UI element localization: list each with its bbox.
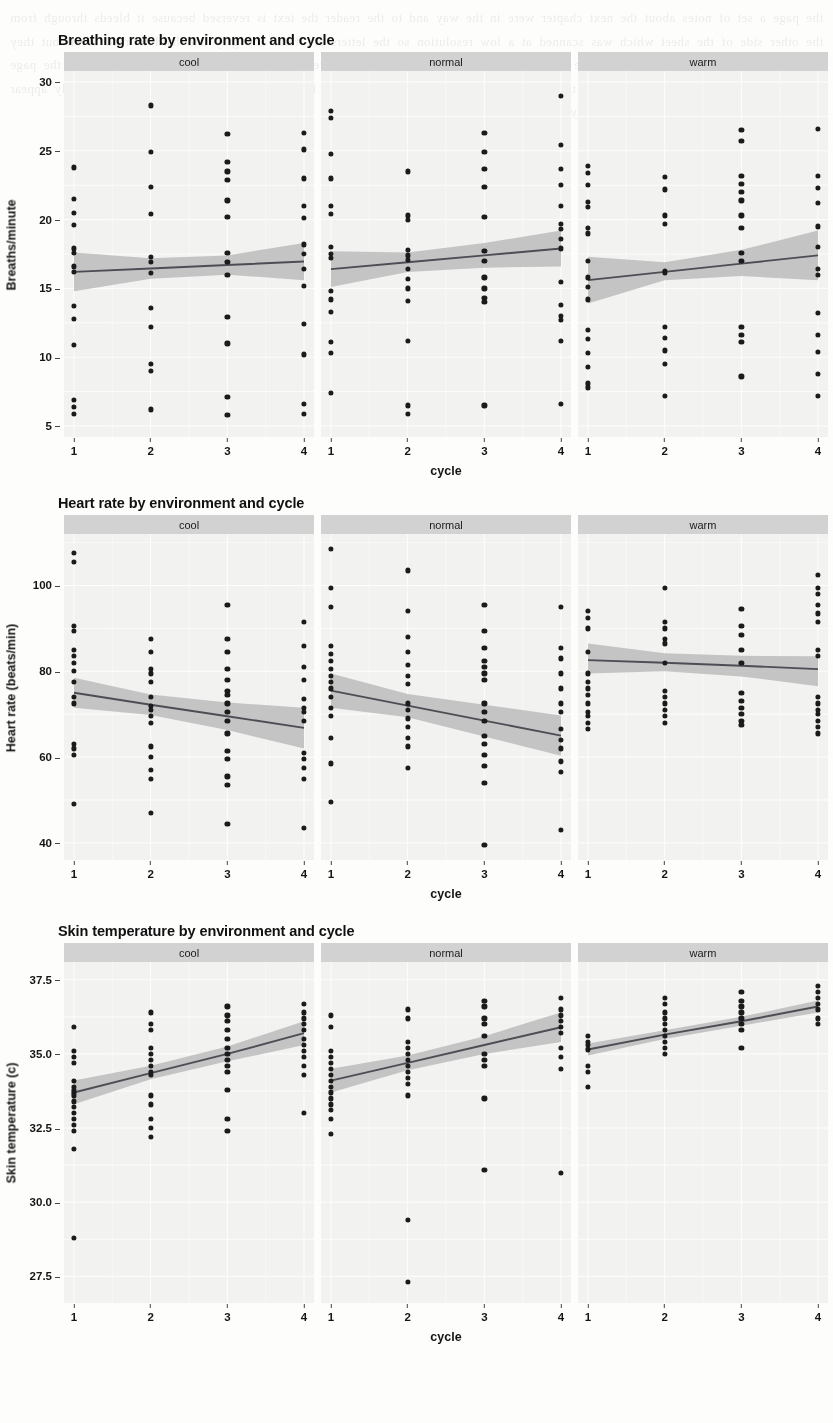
x-axis-tick: 2 [661,1304,667,1323]
facet-strip-label: warm [578,52,828,71]
x-tick-group: 1234 [321,1304,571,1330]
x-axis-tick: 4 [815,861,821,880]
y-axis-label: Heart rate (beats/min) [0,515,22,860]
x-axis-tick: 4 [558,438,564,457]
x-axis-tick: 1 [71,438,77,457]
x-tick-group: 1234 [64,861,314,887]
x-axis-tick: 1 [585,438,591,457]
x-tick-group: 1234 [578,438,828,464]
y-axis: 51015202530 [22,52,60,437]
panel-plot [321,534,571,860]
x-axis-label: cycle [64,464,828,478]
x-tick-group: 1234 [321,438,571,464]
figure-title: Skin temperature by environment and cycl… [58,923,833,939]
panel-canvas [321,71,571,437]
y-axis-tick: 35.0 [30,1048,60,1060]
figure-heart-rate: Heart rate by environment and cycle Hear… [0,495,833,860]
x-tick-group: 1234 [321,861,571,887]
y-axis-tick: 32.5 [30,1122,60,1134]
x-axis: 123412341234 [64,1304,828,1330]
panel-canvas [321,534,571,860]
x-axis-label: cycle [64,1330,828,1344]
x-axis-tick: 4 [558,861,564,880]
y-axis-label: Breaths/minute [0,52,22,437]
x-axis-tick: 2 [404,1304,410,1323]
x-axis-tick: 3 [481,1304,487,1323]
facet-panel-cool: cool [64,52,314,437]
facet-panel-warm: warm [578,52,828,437]
y-axis-tick: 60 [39,751,60,763]
x-axis-tick: 2 [147,861,153,880]
x-axis-tick: 2 [404,861,410,880]
panel-canvas [64,534,314,860]
plot-area: Heart rate (beats/min) 406080100 coolnor… [0,515,833,860]
facet-strip-label: normal [321,52,571,71]
facet-strip-label: cool [64,52,314,71]
facet-panels: coolnormalwarm [64,943,828,1303]
x-axis-tick: 3 [738,438,744,457]
x-axis: 123412341234 [64,438,828,464]
y-axis-tick: 27.5 [30,1270,60,1282]
y-axis-tick: 25 [39,145,60,157]
y-axis: 27.530.032.535.037.5 [22,943,60,1303]
x-axis-tick: 4 [815,438,821,457]
panel-canvas [578,962,828,1303]
x-axis: 123412341234 [64,861,828,887]
facet-panels: coolnormalwarm [64,52,828,437]
x-axis-tick: 4 [301,1304,307,1323]
x-axis-tick: 2 [147,438,153,457]
x-axis-tick: 1 [585,1304,591,1323]
panel-plot [578,962,828,1303]
panel-canvas [321,962,571,1303]
facet-panel-cool: cool [64,515,314,860]
panel-plot [64,71,314,437]
panel-plot [578,71,828,437]
x-axis-tick: 3 [481,438,487,457]
x-axis-tick: 3 [224,1304,230,1323]
x-axis-tick: 3 [481,861,487,880]
x-axis-tick: 4 [301,861,307,880]
panel-canvas [64,962,314,1303]
y-axis-tick: 30 [39,76,60,88]
x-axis-tick: 1 [71,861,77,880]
facet-panel-normal: normal [321,943,571,1303]
y-axis-tick: 100 [33,579,60,591]
y-axis-tick: 15 [39,282,60,294]
facet-strip-label: cool [64,515,314,534]
x-axis-tick: 2 [147,1304,153,1323]
x-axis-tick: 1 [585,861,591,880]
x-axis-tick: 3 [738,1304,744,1323]
y-axis-tick: 10 [39,351,60,363]
y-axis-tick: 80 [39,665,60,677]
facet-panel-warm: warm [578,943,828,1303]
x-tick-group: 1234 [578,861,828,887]
x-axis-tick: 1 [71,1304,77,1323]
panel-plot [578,534,828,860]
x-axis-tick: 4 [815,1304,821,1323]
plot-area: Breaths/minute 51015202530 coolnormalwar… [0,52,833,437]
x-axis-label: cycle [64,887,828,901]
y-axis-tick: 37.5 [30,974,60,986]
y-axis-tick: 5 [46,420,60,432]
panel-canvas [578,71,828,437]
panel-plot [64,962,314,1303]
x-axis-tick: 3 [738,861,744,880]
facet-strip-label: warm [578,515,828,534]
x-tick-group: 1234 [64,1304,314,1330]
x-axis-tick: 1 [328,438,334,457]
x-axis-tick: 2 [404,438,410,457]
facet-panel-normal: normal [321,52,571,437]
figure-title: Breathing rate by environment and cycle [58,32,833,48]
facet-strip-label: cool [64,943,314,962]
figure-skin-temperature: Skin temperature by environment and cycl… [0,923,833,1303]
y-axis: 406080100 [22,515,60,860]
facet-panel-cool: cool [64,943,314,1303]
x-axis-tick: 4 [558,1304,564,1323]
facet-panel-warm: warm [578,515,828,860]
x-axis-tick: 3 [224,438,230,457]
panel-plot [64,534,314,860]
panel-canvas [578,534,828,860]
x-tick-group: 1234 [578,1304,828,1330]
figure-title: Heart rate by environment and cycle [58,495,833,511]
facet-strip-label: warm [578,943,828,962]
